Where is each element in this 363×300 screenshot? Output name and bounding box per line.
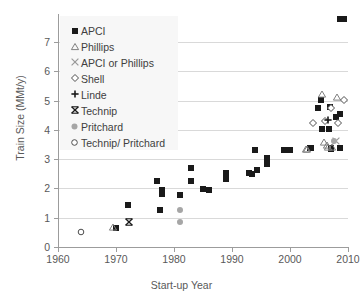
gridline <box>58 159 348 160</box>
data-point-gray-circle <box>176 218 183 225</box>
data-point-square <box>252 147 258 153</box>
data-point-square <box>188 178 194 184</box>
data-point-bowtie <box>71 106 79 114</box>
legend-item: Technip/ Pritchard <box>68 134 165 150</box>
x-tick-mark <box>348 248 349 252</box>
x-tick-label: 2010 <box>328 254 363 265</box>
x-tick-label: 1980 <box>154 254 194 265</box>
data-point-square <box>326 126 332 132</box>
data-point-gray-circle <box>331 137 338 144</box>
data-point-bowtie <box>125 218 133 226</box>
x-tick-label: 2000 <box>270 254 310 265</box>
data-point-square <box>287 147 293 153</box>
y-tick-label: 7 <box>0 37 62 47</box>
data-point-triangle <box>303 145 311 152</box>
data-point-open-circle <box>71 139 78 146</box>
x-cross-icon <box>68 54 81 70</box>
data-point-open-circle <box>78 228 85 235</box>
data-point-diamond <box>71 74 79 82</box>
data-point-square <box>254 167 260 173</box>
bowtie-icon <box>68 102 81 118</box>
x-tick-label: 1990 <box>212 254 252 265</box>
data-point-diamond <box>340 96 348 104</box>
data-point-plus <box>324 116 332 124</box>
data-point-square <box>319 126 325 132</box>
data-point-square <box>337 111 343 117</box>
x-tick-mark <box>116 248 117 252</box>
y-tick-label: 1 <box>0 213 62 223</box>
x-tick-mark <box>232 248 233 252</box>
legend-item: APCI <box>68 22 106 38</box>
x-tick-mark <box>290 248 291 252</box>
data-point-square <box>157 207 163 213</box>
gray-circle-icon <box>68 118 81 134</box>
data-point-square <box>154 178 160 184</box>
data-point-square <box>315 105 321 111</box>
x-tick-mark <box>174 248 175 252</box>
y-tick-label: 3 <box>0 154 62 164</box>
legend-item-label: Shell <box>81 71 104 87</box>
legend-item: APCI or Phillips <box>68 54 154 70</box>
legend-item: Phillips <box>68 38 114 54</box>
scatter-chart: 01234567196019701980199020002010 APCIPhi… <box>0 0 363 300</box>
data-point-square <box>177 192 183 198</box>
filled-square-icon <box>68 22 81 38</box>
data-point-square <box>341 16 347 22</box>
data-point-diamond <box>309 119 317 127</box>
legend-item-label: Technip/ Pritchard <box>81 135 165 151</box>
open-diamond-icon <box>68 70 81 86</box>
legend-item-label: Pritchard <box>81 119 123 135</box>
data-point-gray-circle <box>176 206 183 213</box>
data-point-square <box>264 161 270 167</box>
data-point-gray-circle <box>71 123 78 130</box>
y-tick-label: 4 <box>0 125 62 135</box>
data-point-square <box>206 187 212 193</box>
legend-item: Pritchard <box>68 118 123 134</box>
y-tick-label: 5 <box>0 96 62 106</box>
chart-legend: APCIPhillipsAPCI or PhillipsShellLindeTe… <box>60 16 178 150</box>
data-point-triangle <box>318 91 326 98</box>
x-axis-line <box>58 247 349 248</box>
data-point-square <box>223 176 229 182</box>
legend-item-label: APCI <box>81 23 106 39</box>
legend-item-label: Technip <box>81 103 117 119</box>
data-point-square <box>159 191 165 197</box>
plus-icon <box>68 86 81 102</box>
x-tick-label: 1970 <box>96 254 136 265</box>
open-triangle-icon <box>68 38 81 54</box>
y-axis-title: Train Size (MMt/y) <box>14 48 26 188</box>
legend-item-label: Linde <box>81 87 107 103</box>
data-point-plus <box>71 90 79 98</box>
x-axis-title: Start-up Year <box>0 279 363 291</box>
legend-item: Technip <box>68 102 117 118</box>
gridline <box>58 218 348 219</box>
legend-item-label: Phillips <box>81 39 114 55</box>
x-tick-mark <box>58 248 59 252</box>
data-point-diamond <box>334 119 342 127</box>
data-point-x <box>71 58 79 66</box>
data-point-triangle <box>109 223 117 230</box>
legend-item: Linde <box>68 86 107 102</box>
legend-item: Shell <box>68 70 104 86</box>
data-point-square <box>72 28 78 34</box>
data-point-diamond <box>327 104 335 112</box>
x-tick-label: 1960 <box>38 254 78 265</box>
data-point-triangle <box>71 43 79 50</box>
y-tick-label: 6 <box>0 66 62 76</box>
legend-item-label: APCI or Phillips <box>81 55 154 71</box>
data-point-square <box>337 145 343 151</box>
data-point-square <box>125 202 131 208</box>
data-point-square <box>188 165 194 171</box>
open-circle-icon <box>68 134 81 150</box>
y-tick-label: 2 <box>0 183 62 193</box>
y-tick-label: 0 <box>0 242 62 252</box>
